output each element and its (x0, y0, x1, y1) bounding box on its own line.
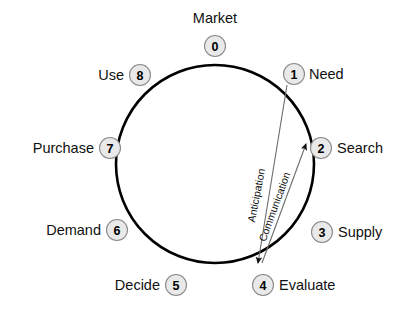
cycle-ring (116, 65, 314, 263)
node-demand[interactable]: 6Demand (46, 220, 127, 241)
node-number-demand: 6 (114, 224, 121, 238)
nodes-layer: 0Market1Need2Search3Supply4Evaluate5Deci… (33, 10, 383, 296)
node-label-purchase: Purchase (33, 140, 94, 156)
node-label-evaluate: Evaluate (279, 277, 335, 293)
node-label-supply: Supply (338, 224, 383, 240)
node-label-need: Need (309, 66, 344, 82)
node-number-evaluate: 4 (260, 279, 267, 293)
arrow-communication: Communication (256, 144, 306, 263)
node-label-decide: Decide (115, 277, 160, 293)
node-number-supply: 3 (319, 226, 326, 240)
arrow-label-anticipation: Anticipation (245, 167, 267, 223)
node-label-search: Search (337, 140, 383, 156)
diagram-canvas: AnticipationCommunication 0Market1Need2S… (0, 0, 420, 313)
node-purchase[interactable]: 7Purchase (33, 138, 121, 159)
node-need[interactable]: 1Need (284, 64, 344, 85)
node-use[interactable]: 8Use (98, 65, 150, 86)
node-decide[interactable]: 5Decide (115, 275, 187, 296)
node-number-market: 0 (212, 40, 219, 54)
arrows-layer: AnticipationCommunication (245, 85, 306, 263)
node-supply[interactable]: 3Supply (312, 222, 384, 243)
node-search[interactable]: 2Search (311, 138, 383, 159)
node-number-search: 2 (318, 142, 325, 156)
node-market[interactable]: 0Market (193, 10, 237, 57)
node-evaluate[interactable]: 4Evaluate (253, 275, 336, 296)
node-label-market: Market (193, 10, 237, 26)
node-label-use: Use (98, 67, 124, 83)
node-number-purchase: 7 (107, 142, 114, 156)
node-number-need: 1 (291, 68, 298, 82)
node-number-use: 8 (137, 69, 144, 83)
node-number-decide: 5 (173, 279, 180, 293)
market-cycle-diagram: AnticipationCommunication 0Market1Need2S… (0, 0, 420, 313)
node-label-demand: Demand (46, 222, 101, 238)
